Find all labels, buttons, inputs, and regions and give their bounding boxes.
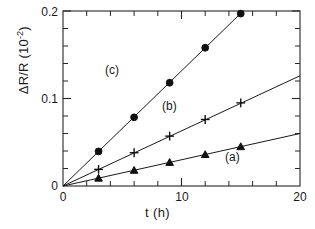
- data-point-c-1: [131, 114, 138, 121]
- plot-area: [0, 0, 315, 229]
- data-point-c-0: [95, 148, 102, 155]
- series-line-c: [63, 11, 243, 186]
- data-point-c-3: [202, 44, 209, 51]
- figure-container: ΔR/R (10-2) t (h) 0.2 0.1 0 0 10 20 (c) …: [0, 0, 315, 229]
- data-point-c-4: [237, 10, 244, 17]
- data-point-c-2: [166, 79, 173, 86]
